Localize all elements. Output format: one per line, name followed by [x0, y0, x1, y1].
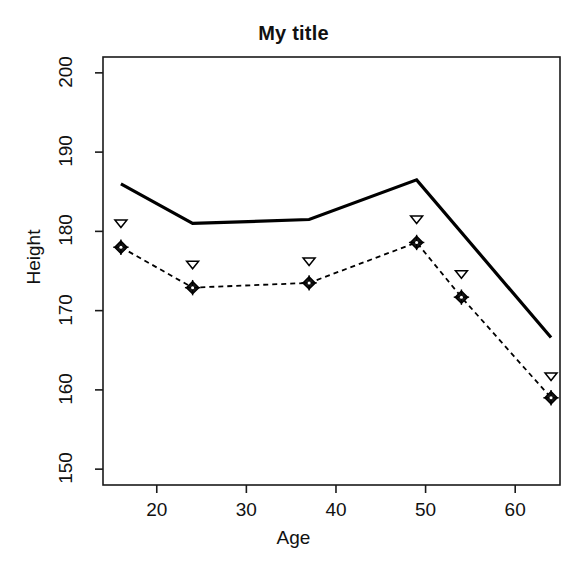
triangle-down-marker	[411, 216, 423, 224]
series-line	[121, 242, 551, 397]
y-tick-label: 190	[55, 128, 77, 174]
x-axis-label: Age	[0, 527, 587, 549]
y-axis-label: Height	[23, 187, 45, 327]
x-axis-ticks	[157, 485, 515, 493]
axis-frame	[103, 57, 560, 485]
x-tick-label: 20	[134, 499, 180, 521]
y-tick-label: 180	[55, 207, 77, 253]
y-tick-label: 160	[55, 366, 77, 412]
y-tick-label: 150	[55, 445, 77, 491]
chart-canvas: My title 150160170180190200 2030405060 A…	[0, 0, 587, 570]
marker-center-dot	[119, 246, 122, 249]
y-tick-label: 170	[55, 287, 77, 333]
marker-center-dot	[191, 286, 194, 289]
y-axis-ticks	[95, 73, 103, 469]
marker-center-dot	[550, 396, 553, 399]
marker-center-dot	[460, 296, 463, 299]
x-tick-label: 60	[492, 499, 538, 521]
plot-area-svg	[0, 0, 587, 570]
triangle-down-marker	[115, 220, 127, 228]
triangle-down-marker	[545, 373, 557, 381]
series-line	[121, 180, 551, 338]
x-tick-label: 40	[313, 499, 359, 521]
x-tick-label: 50	[403, 499, 449, 521]
y-tick-label: 200	[55, 49, 77, 95]
marker-center-dot	[308, 281, 311, 284]
data-series-layer	[113, 180, 559, 406]
triangle-down-marker	[303, 258, 315, 266]
triangle-down-marker	[187, 261, 199, 269]
x-tick-label: 30	[223, 499, 269, 521]
triangle-down-marker	[455, 271, 467, 279]
marker-center-dot	[415, 241, 418, 244]
